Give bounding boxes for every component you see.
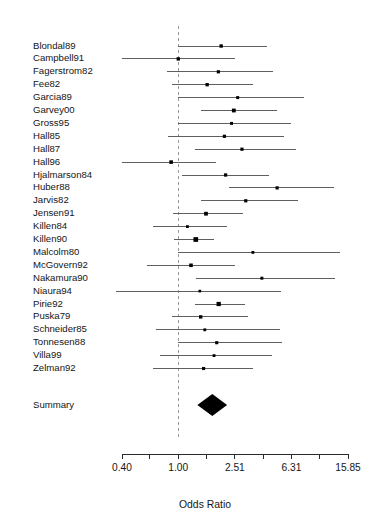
effect-estimate-marker	[230, 122, 233, 125]
study-label: Zelman92	[33, 362, 76, 373]
effect-estimate-marker	[193, 237, 198, 242]
effect-estimate-marker	[213, 354, 216, 357]
effect-estimate-marker	[240, 148, 243, 151]
effect-estimate-marker	[204, 212, 208, 216]
axis-tick-label: 2.51	[225, 462, 245, 473]
study-label: Nakamura90	[33, 272, 88, 283]
study-label: Fagerstrom82	[33, 65, 93, 76]
study-label: Huber88	[33, 181, 70, 192]
summary-label: Summary	[33, 399, 74, 410]
forest-plot: Blondal89Campbell91Fagerstrom82Fee82Garc…	[0, 0, 369, 528]
effect-estimate-marker	[244, 199, 247, 202]
study-label: Garcia89	[33, 91, 72, 102]
effect-estimate-marker	[251, 251, 254, 254]
effect-estimate-marker	[224, 173, 227, 176]
study-label: Pirie92	[33, 298, 63, 309]
study-label: McGovern92	[33, 259, 88, 270]
study-label: Hall85	[33, 130, 60, 141]
effect-estimate-marker	[215, 341, 218, 344]
effect-estimate-marker	[177, 57, 180, 60]
axis-tick-label: 1.00	[168, 462, 188, 473]
effect-estimate-marker	[217, 70, 220, 73]
effect-estimate-marker	[219, 44, 222, 47]
effect-estimate-marker	[236, 96, 239, 99]
study-label: Gross95	[33, 117, 69, 128]
study-label: Malcolm80	[33, 246, 79, 257]
x-axis-title: Odds Ratio	[179, 499, 231, 510]
effect-estimate-marker	[169, 160, 173, 164]
study-label: Killen90	[33, 233, 67, 244]
effect-estimate-marker	[223, 135, 226, 138]
study-label: Jensen91	[33, 207, 75, 218]
study-label: Puska79	[33, 310, 70, 321]
study-label: Hall87	[33, 143, 60, 154]
study-label: Blondal89	[33, 40, 76, 51]
effect-estimate-marker	[189, 264, 193, 268]
study-label: Killen84	[33, 220, 68, 231]
effect-estimate-marker	[203, 328, 206, 331]
effect-estimate-marker	[260, 277, 263, 280]
effect-estimate-marker	[217, 302, 221, 306]
effect-estimate-marker	[198, 290, 201, 293]
study-label: Hall96	[33, 156, 60, 167]
axis-tick-label: 6.31	[282, 462, 302, 473]
study-label: Fee82	[33, 78, 60, 89]
axis-tick-label: 15.85	[335, 462, 361, 473]
effect-estimate-marker	[232, 109, 236, 113]
axis-tick-label: 0.40	[112, 462, 132, 473]
study-label: Garvey00	[33, 104, 75, 115]
study-label: Niaura94	[33, 285, 73, 296]
effect-estimate-marker	[276, 186, 279, 189]
study-label: Hjalmarson84	[33, 169, 93, 180]
study-label: Villa99	[33, 349, 62, 360]
study-label: Tonnesen88	[33, 336, 85, 347]
effect-estimate-marker	[202, 367, 205, 370]
effect-estimate-marker	[199, 315, 202, 318]
effect-estimate-marker	[186, 225, 189, 228]
study-label: Jarvis82	[33, 194, 69, 205]
study-label: Schneider85	[33, 323, 87, 334]
study-label: Campbell91	[33, 52, 84, 63]
effect-estimate-marker	[205, 83, 208, 86]
